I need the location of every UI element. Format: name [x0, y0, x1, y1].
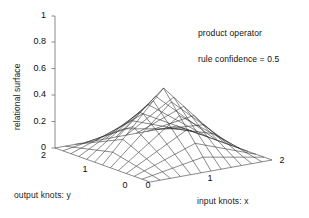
axis-lines — [52, 16, 56, 148]
surface-mesh — [55, 88, 272, 182]
surface-mesh-canvas — [0, 0, 309, 218]
surface-plot-figure: 1 0.8 0.6 0.4 0.2 0 2 1 0 0 1 2 relation… — [0, 0, 309, 218]
